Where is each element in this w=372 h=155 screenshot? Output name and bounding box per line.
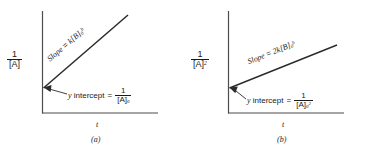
panel-a: 1 [A] Slope = k[B]0b y intercept = 1 [A]… xyxy=(0,0,186,155)
caption-b: (b) xyxy=(277,136,286,144)
intercept-label-b-value: 1 [A]02 xyxy=(294,92,313,110)
intercept-label-a: y intercept = 1 [A]0 xyxy=(68,87,131,105)
intercept-label-b-text: y intercept xyxy=(247,97,283,105)
y-axis-label-a-denominator: [A] xyxy=(7,60,22,69)
y-axis-label-b-exponent: 2 xyxy=(204,60,207,66)
x-axis-label-b: t xyxy=(282,121,284,129)
intercept-label-a-equals: = xyxy=(107,92,112,100)
intercept-label-b-equals: = xyxy=(286,97,291,105)
caption-a: (a) xyxy=(91,136,100,144)
panel-a-plot xyxy=(0,0,186,155)
intercept-label-a-text: y intercept xyxy=(68,92,104,100)
panel-b-plot xyxy=(186,0,372,155)
y-axis-label-b: 1 [A]2 xyxy=(191,50,209,70)
intercept-label-a-value: 1 [A]0 xyxy=(115,87,131,105)
x-axis-label-a: t xyxy=(96,121,98,129)
intercept-label-b: y intercept = 1 [A]02 xyxy=(247,92,313,110)
y-axis-label-b-denominator: [A]2 xyxy=(191,60,209,69)
intercept-label-b-denominator: [A]02 xyxy=(294,101,313,109)
intercept-label-a-denominator: [A]0 xyxy=(115,96,131,104)
y-axis-label-a: 1 [A] xyxy=(7,50,22,70)
figure-container: 1 [A] Slope = k[B]0b y intercept = 1 [A]… xyxy=(0,0,372,155)
panel-b: 1 [A]2 Slope = 2k[B]0b y intercept = 1 [… xyxy=(186,0,372,155)
